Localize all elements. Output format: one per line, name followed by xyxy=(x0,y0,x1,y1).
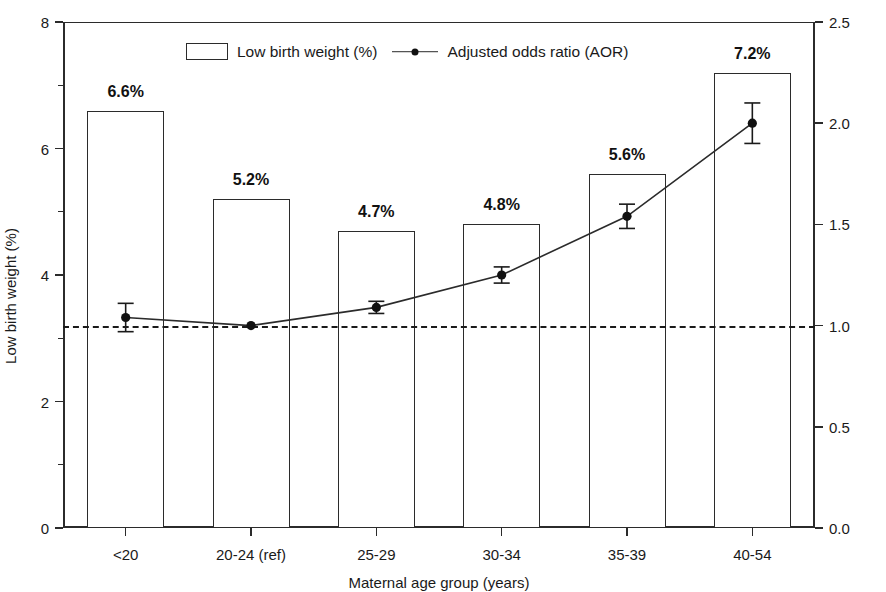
y-axis-right-tick xyxy=(815,325,823,327)
aor-data-point xyxy=(246,321,255,330)
y-axis-left-tick-label: 8 xyxy=(41,15,49,30)
y-axis-left-tick-label: 4 xyxy=(41,268,49,283)
x-axis-tick xyxy=(125,528,127,536)
legend-line-marker-icon xyxy=(392,46,438,58)
y-axis-right-tick-label: 0.5 xyxy=(829,420,850,435)
aor-data-point xyxy=(497,270,506,279)
y-axis-right-tick-label: 2.5 xyxy=(829,15,850,30)
y-axis-right-tick xyxy=(815,122,823,124)
aor-line-series xyxy=(63,22,815,528)
x-axis-tick-label: 25-29 xyxy=(357,547,395,562)
y-axis-right-tick xyxy=(815,426,823,428)
y-axis-left-tick xyxy=(55,527,63,529)
y-axis-left-title: Low birth weight (%) xyxy=(3,228,18,364)
y-axis-left-tick-label: 0 xyxy=(41,521,49,536)
plot-area: 02468 0.00.51.01.52.02.5 6.6%5.2%4.7%4.8… xyxy=(63,22,815,528)
x-axis-tick xyxy=(501,528,503,536)
x-axis-tick-label: <20 xyxy=(113,547,138,562)
x-axis-tick xyxy=(376,528,378,536)
aor-data-point xyxy=(748,119,757,128)
y-axis-left-tick xyxy=(55,148,63,150)
y-axis-left-tick xyxy=(55,274,63,276)
y-axis-right-tick xyxy=(815,21,823,23)
x-axis-tick xyxy=(752,528,754,536)
y-axis-right-tick xyxy=(815,224,823,226)
legend-line-label: Adjusted odds ratio (AOR) xyxy=(447,44,628,60)
y-axis-left-tick xyxy=(55,401,63,403)
aor-data-point xyxy=(622,212,631,221)
x-axis-title: Maternal age group (years) xyxy=(349,575,530,590)
x-axis-tick xyxy=(626,528,628,536)
x-axis-tick-label: 40-54 xyxy=(733,547,771,562)
y-axis-right-tick-label: 2.0 xyxy=(829,116,850,131)
y-axis-left-tick xyxy=(55,21,63,23)
aor-polyline xyxy=(126,123,753,325)
x-axis-tick-label: 20-24 (ref) xyxy=(216,547,286,562)
y-axis-right-tick xyxy=(815,527,823,529)
aor-data-point xyxy=(372,303,381,312)
x-axis-tick-label: 35-39 xyxy=(608,547,646,562)
y-axis-right-tick-label: 0.0 xyxy=(829,521,850,536)
y-axis-left-tick-label: 6 xyxy=(41,142,49,157)
legend-bar-swatch-icon xyxy=(186,43,228,60)
y-axis-left-tick-label: 2 xyxy=(41,395,49,410)
chart-figure: 02468 0.00.51.01.52.02.5 6.6%5.2%4.7%4.8… xyxy=(0,0,886,592)
x-axis-tick xyxy=(250,528,252,536)
aor-data-point xyxy=(121,313,130,322)
x-axis-tick-label: 30-34 xyxy=(482,547,520,562)
legend-bar-label: Low birth weight (%) xyxy=(237,44,377,60)
chart-legend: Low birth weight (%) Adjusted odds ratio… xyxy=(181,40,633,63)
y-axis-right-tick-label: 1.5 xyxy=(829,217,850,232)
y-axis-right-tick-label: 1.0 xyxy=(829,319,850,334)
